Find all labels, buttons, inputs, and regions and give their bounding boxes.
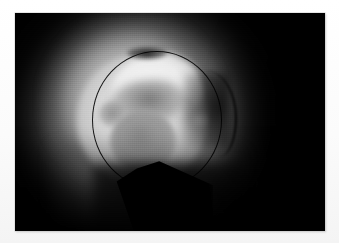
endoscopic-photograph [15,13,325,231]
page-canvas [0,0,339,243]
vignette-right [165,13,325,231]
satellite-spot [99,101,125,127]
grey-lesion-core [123,121,157,151]
dark-wedge [101,141,213,231]
film-grain-overlay [15,13,325,231]
lower-left-glow [51,145,143,223]
scope-ring-smudge [127,47,167,59]
dark-wedge-soft [93,163,243,231]
tissue-groove [111,79,185,123]
scope-field-ring [92,51,222,189]
photo-caption [15,233,325,243]
bright-tissue-mass [77,55,207,185]
instrument-thread [191,71,237,157]
grey-lesion [110,110,176,172]
illumination-halo-outer [15,13,291,231]
vignette-bottom [15,133,325,231]
bright-bleb-a [189,111,209,128]
illumination-halo-inner [41,15,231,201]
instrument-shadow [183,73,229,147]
bright-bleb-b [180,99,194,111]
upper-tissue-lobe [111,53,203,119]
